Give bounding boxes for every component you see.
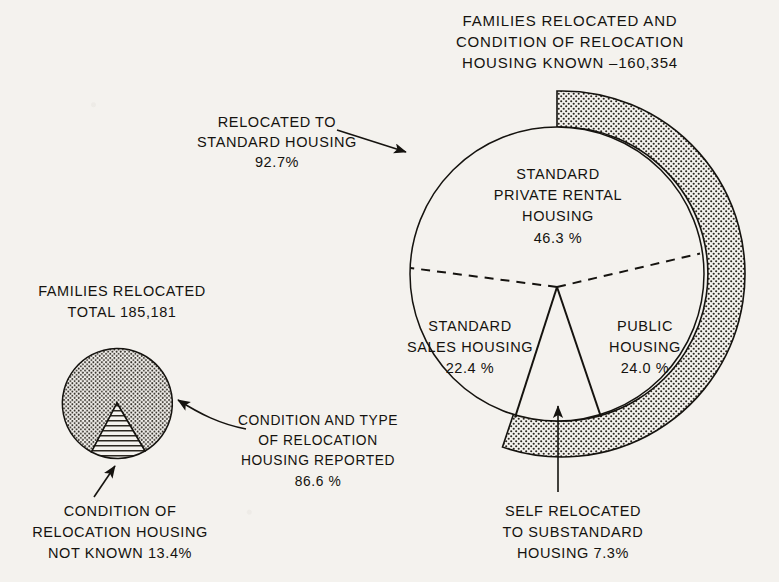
reported-value: 86.6 % [295, 474, 342, 489]
sales-line2: SALES HOUSING [407, 339, 533, 355]
right-title-line1: FAMILIES RELOCATED AND [463, 12, 678, 29]
public-value: 24.0 % [621, 360, 670, 376]
reported-line2: OF RELOCATION [258, 433, 377, 448]
ring-label-value: 92.7% [255, 154, 299, 170]
left-title-line1: FAMILIES RELOCATED [38, 283, 206, 299]
rental-line2: PRIVATE RENTAL [494, 187, 622, 203]
public-line2: HOUSING [609, 339, 681, 355]
self-line1: SELF RELOCATED [505, 503, 641, 519]
rental-value: 46.3 % [534, 230, 583, 246]
notknown-line3: NOT KNOWN 13.4% [48, 545, 192, 561]
public-line1: PUBLIC [617, 318, 673, 334]
notknown-line1: CONDITION OF [64, 503, 177, 519]
self-line3: HOUSING 7.3% [517, 545, 629, 561]
segment-label-self-relocated: SELF RELOCATED TO SUBSTANDARD HOUSING 7.… [503, 503, 644, 561]
ring-label-line1: RELOCATED TO [218, 114, 336, 130]
sales-line1: STANDARD [428, 318, 511, 334]
rental-line1: STANDARD [516, 166, 599, 182]
statistical-pie-figure: FAMILIES RELOCATED AND CONDITION OF RELO… [0, 0, 779, 582]
ring-label-line2: STANDARD HOUSING [197, 134, 357, 150]
left-title-line2: TOTAL 185,181 [67, 304, 176, 320]
self-line2: TO SUBSTANDARD [503, 524, 644, 540]
notknown-line2: RELOCATION HOUSING [32, 524, 208, 540]
right-chart-title: FAMILIES RELOCATED AND CONDITION OF RELO… [456, 12, 684, 71]
reported-line3: HOUSING REPORTED [241, 453, 395, 468]
right-title-line3: HOUSING KNOWN –160,354 [462, 54, 678, 71]
sales-value: 22.4 % [446, 360, 495, 376]
right-title-line2: CONDITION OF RELOCATION [456, 33, 684, 50]
reported-line1: CONDITION AND TYPE [238, 413, 398, 428]
rental-line3: HOUSING [522, 208, 594, 224]
